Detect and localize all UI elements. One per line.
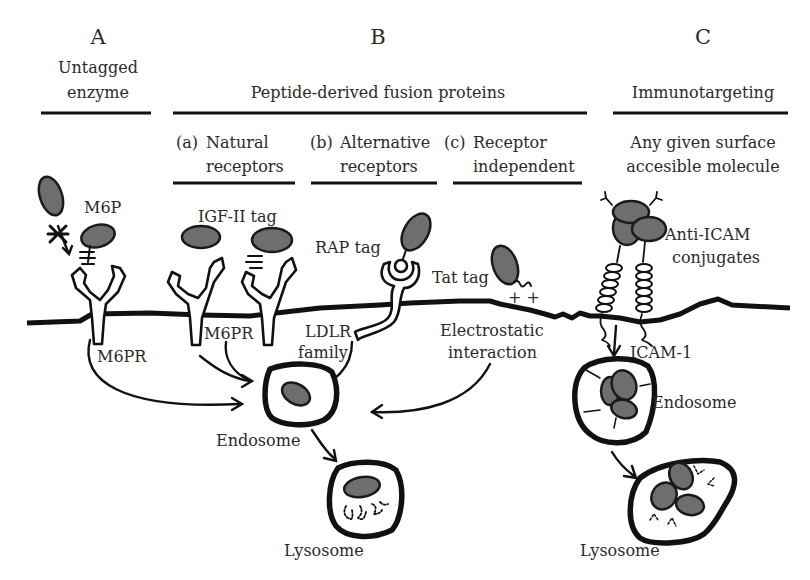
section-a-pathway: M6P M6PR — [34, 174, 147, 366]
label-electrostatic-line1: Electrostatic — [440, 321, 544, 340]
label-lysosome-b: Lysosome — [284, 541, 364, 560]
arrow-endosome-to-lysosome-b — [312, 430, 334, 458]
label-anti-icam-line1: Anti-ICAM — [664, 225, 750, 244]
icam1-receptor-icon-1 — [596, 246, 622, 346]
lysosome-b-icon — [329, 462, 401, 536]
lysosomal-enzyme-delivery-diagram: A Untagged enzyme B Peptide-derived fusi… — [0, 0, 810, 580]
arrow-endosome-to-lysosome-c — [612, 452, 634, 476]
label-ldlr-line2: family — [298, 343, 348, 362]
untagged-enzyme-icon — [34, 174, 67, 219]
label-anti-icam-line2: conjugates — [672, 248, 760, 267]
header-section-a: A Untagged enzyme — [41, 25, 151, 113]
m6pr-receptor-icon-a — [72, 266, 125, 344]
section-c-title: Immunotargeting — [632, 83, 774, 102]
subsection-c-line1: Receptor — [473, 133, 547, 152]
label-positive-charge: + + — [508, 288, 540, 307]
label-electrostatic-line2: interaction — [448, 343, 537, 362]
label-endosome-c: Endosome — [652, 393, 736, 412]
subsection-c-prefix: (c) — [444, 133, 465, 152]
label-rap-tag: RAP tag — [315, 238, 381, 257]
label-m6p: M6P — [84, 198, 122, 217]
arrow-bc-to-endosome — [372, 364, 490, 412]
tat-peptide-icon — [514, 281, 531, 287]
subsection-b-prefix: (b) — [310, 133, 333, 152]
subsection-b-line2: receptors — [340, 157, 418, 176]
label-lysosome-c: Lysosome — [580, 541, 660, 560]
section-c-sub-line2: accesible molecule — [626, 157, 779, 176]
m6p-glycan-icon-b — [246, 256, 262, 268]
subsection-a-prefix: (a) — [176, 133, 198, 152]
rap-tagged-enzyme-icon — [396, 209, 437, 256]
m6p-tagged-enzyme-icon — [79, 221, 118, 251]
section-a-title-line2: enzyme — [67, 83, 129, 102]
cell-membrane — [27, 299, 790, 323]
section-letter-b: B — [370, 25, 385, 49]
section-b-trafficking: Endosome Lysosome — [89, 340, 490, 560]
label-igf2-tag: IGF-II tag — [198, 207, 277, 226]
blocked-binding-icon — [48, 226, 72, 254]
label-endosome-b: Endosome — [216, 431, 300, 450]
section-bb-pathway: RAP tag LDLR family — [298, 209, 436, 362]
subsection-a-line1: Natural — [206, 133, 269, 152]
section-ba-pathway: IGF-II tag M6PR — [168, 207, 296, 345]
subsection-a-line2: receptors — [206, 157, 284, 176]
section-b-title: Peptide-derived fusion proteins — [251, 83, 505, 102]
label-m6pr-b: M6PR — [204, 324, 254, 343]
label-tat-tag: Tat tag — [432, 268, 489, 287]
arrow-membrane-to-endosome-c — [614, 326, 616, 354]
section-c-sub-line1: Any given surface — [629, 133, 775, 152]
section-letter-a: A — [89, 25, 106, 49]
header-section-b: B Peptide-derived fusion proteins (a) Na… — [173, 25, 587, 183]
icam1-receptor-icon-2 — [636, 242, 652, 346]
label-ldlr-line1: LDLR — [305, 322, 352, 341]
header-section-c: C Immunotargeting Any given surface acce… — [613, 25, 788, 176]
rap-ligand-icon — [395, 260, 407, 272]
section-c-pathway: Anti-ICAM conjugates ICAM-1 — [575, 192, 760, 560]
label-m6pr-a: M6PR — [97, 347, 147, 366]
anti-icam-conjugate-icon — [601, 192, 666, 245]
igf2-tagged-enzyme-icon-2 — [252, 228, 292, 252]
subsection-b-line1: Alternative — [339, 133, 430, 152]
diagram-canvas: A Untagged enzyme B Peptide-derived fusi… — [0, 0, 810, 580]
subsection-c-line2: independent — [473, 157, 575, 176]
section-letter-c: C — [695, 25, 711, 49]
section-a-title-line1: Untagged — [58, 58, 138, 77]
igf2-tagged-enzyme-icon-1 — [182, 226, 220, 248]
